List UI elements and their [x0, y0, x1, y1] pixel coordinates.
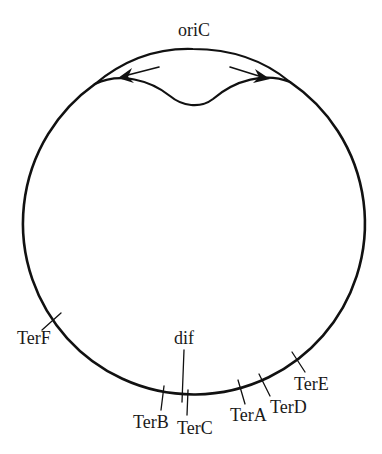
oriC-label: oriC [178, 20, 210, 40]
terE-label: TerE [294, 374, 329, 394]
terB-tick [161, 386, 164, 410]
terB-label: TerB [133, 412, 169, 432]
terA-label: TerA [230, 405, 267, 425]
chromosome-diagram: oriC TerF TerB dif TerC TerA TerD TerE [0, 0, 382, 454]
dif-label: dif [174, 328, 194, 348]
terA-tick [238, 380, 245, 404]
terF-label: TerF [17, 328, 51, 348]
replication-bubble-inner [95, 78, 290, 105]
terD-label: TerD [270, 397, 307, 417]
terC-label: TerC [177, 418, 213, 438]
